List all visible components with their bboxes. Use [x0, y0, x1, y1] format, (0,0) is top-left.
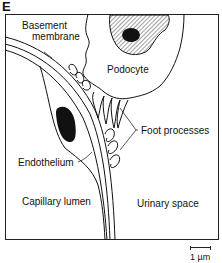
urinary-space-label: Urinary space — [137, 198, 199, 209]
podocyte-nucleolus — [122, 28, 140, 42]
scale-bar — [190, 246, 211, 250]
endothelium-label: Endothelium — [18, 157, 74, 168]
foot-processes — [69, 64, 128, 167]
endothelium-outline — [40, 66, 105, 240]
basement-membrane-label: Basement — [22, 20, 67, 31]
foot-processes-label: Foot processes — [141, 125, 209, 136]
podocyte-label: Podocyte — [107, 64, 149, 75]
basement-membrane-label-line2: membrane — [32, 31, 80, 42]
scale-bar-label: 1 µm — [190, 252, 210, 263]
capillary-lumen-label: Capillary lumen — [22, 196, 91, 207]
